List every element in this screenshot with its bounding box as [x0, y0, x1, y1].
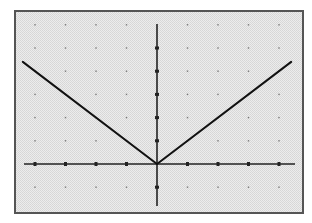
grid-dot — [65, 24, 66, 25]
grid-dot — [248, 47, 249, 48]
grid-dot — [248, 187, 249, 188]
y-tick — [155, 186, 159, 189]
x-tick — [34, 162, 37, 166]
x-tick — [95, 162, 98, 166]
plot-frame — [15, 11, 303, 213]
grid-dot — [278, 140, 279, 141]
x-tick — [64, 162, 67, 166]
grid-dot — [248, 117, 249, 118]
y-tick — [155, 116, 159, 119]
x-tick — [278, 162, 281, 166]
grid-dot — [95, 47, 96, 48]
grid-dot — [278, 47, 279, 48]
y-tick — [155, 93, 159, 96]
grid-dot — [248, 24, 249, 25]
grid-dot — [34, 24, 35, 25]
x-tick — [247, 162, 250, 166]
grid-dot — [278, 117, 279, 118]
x-tick — [186, 162, 189, 166]
grid-dot — [187, 187, 188, 188]
grid-dot — [187, 117, 188, 118]
grid-dot — [217, 71, 218, 72]
grid-dot — [187, 71, 188, 72]
grid-dot — [126, 94, 127, 95]
grid-dot — [95, 94, 96, 95]
grid-dot — [95, 24, 96, 25]
grid-dot — [34, 187, 35, 188]
grid-dot — [126, 187, 127, 188]
grid-dot — [65, 117, 66, 118]
grid-dot — [278, 94, 279, 95]
grid-dot — [248, 140, 249, 141]
grid-dot — [126, 117, 127, 118]
grid-dot — [187, 24, 188, 25]
x-tick — [125, 162, 128, 166]
grid-dot — [34, 117, 35, 118]
grid-dot — [65, 187, 66, 188]
grid-dot — [187, 94, 188, 95]
y-tick — [155, 47, 159, 50]
grid-dot — [65, 140, 66, 141]
grid-dot — [34, 94, 35, 95]
grid-dot — [126, 71, 127, 72]
x-tick — [217, 162, 220, 166]
grid-dot — [217, 187, 218, 188]
grid-dot — [217, 140, 218, 141]
grid-dot — [34, 140, 35, 141]
grid-dot — [95, 187, 96, 188]
grid-dot — [278, 24, 279, 25]
grid-dot — [126, 47, 127, 48]
grid-dot — [187, 47, 188, 48]
graph-plot — [0, 0, 312, 223]
grid-dot — [126, 24, 127, 25]
grid-dot — [95, 71, 96, 72]
grid-dot — [34, 47, 35, 48]
y-tick — [155, 70, 159, 73]
y-tick — [155, 139, 159, 142]
grid-dot — [65, 47, 66, 48]
grid-dot — [217, 94, 218, 95]
grid-dot — [278, 187, 279, 188]
grid-dot — [217, 47, 218, 48]
grid-dot — [65, 71, 66, 72]
grid-dot — [95, 140, 96, 141]
grid-dot — [248, 71, 249, 72]
grid-dot — [217, 24, 218, 25]
